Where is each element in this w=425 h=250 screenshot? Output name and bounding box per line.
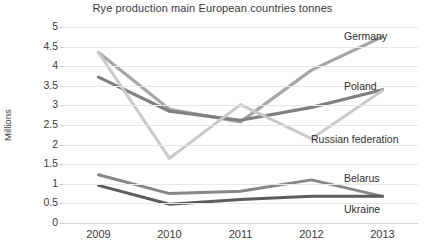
y-tick-label: 1 [14,177,58,190]
gridline [63,223,418,224]
gridline [63,27,418,28]
series-label: Germany [344,30,387,42]
x-tick-label: 2011 [211,228,271,240]
y-tick-label: 5 [14,20,58,33]
series-label: Belarus [344,172,380,184]
gridline [63,125,418,126]
plot-area [63,27,418,223]
y-tick-label: 1.5 [14,157,58,170]
series-line [99,175,383,197]
y-tick-label: 3 [14,98,58,111]
x-tick-label: 2012 [282,228,342,240]
series-label: Russian federation [311,133,399,145]
gridline [63,164,418,165]
y-tick-label: 0 [14,216,58,229]
series-label: Ukraine [344,203,380,215]
x-tick-label: 2009 [69,228,129,240]
x-axis-tick-labels: 20092010201120122013 [63,228,418,248]
y-tick-label: 3.5 [14,79,58,92]
y-tick-label: 2 [14,138,58,151]
y-tick-label: 2.5 [14,118,58,131]
x-tick-label: 2013 [353,228,413,240]
line-chart: Rye production main European countries t… [0,0,425,250]
series-line [99,37,383,122]
gridline [63,105,418,106]
series-label: Poland [344,80,377,92]
gridline [63,66,418,67]
y-tick-label: 4 [14,59,58,72]
x-tick-label: 2010 [140,228,200,240]
series-line [99,185,383,204]
y-tick-label: 0.5 [14,196,58,209]
gridline [63,47,418,48]
chart-title: Rye production main European countries t… [0,2,425,14]
y-tick-label: 4.5 [14,40,58,53]
